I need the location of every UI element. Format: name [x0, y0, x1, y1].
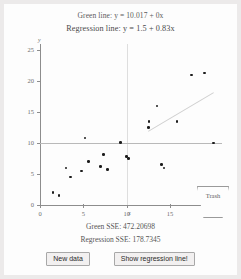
data-point[interactable]: [102, 153, 105, 156]
y-axis-label: y: [38, 37, 41, 43]
regression-line-equation: Regression line: y = 1.5 + 0.83x: [4, 24, 237, 33]
y-tick-label: 25: [18, 46, 34, 53]
x-tick-label: 15: [162, 210, 178, 217]
green-line-equation: Green line: y = 10.017 + 0x: [4, 11, 237, 20]
y-tick-mark: [37, 81, 41, 82]
button-bar: New data Show regression line!: [4, 252, 237, 266]
data-point[interactable]: [203, 72, 206, 75]
data-point[interactable]: [163, 167, 166, 170]
data-point[interactable]: [148, 120, 151, 123]
trash-label: Trash: [197, 192, 229, 199]
x-tick-mark: [83, 204, 84, 208]
data-point[interactable]: [99, 165, 102, 168]
data-point[interactable]: [160, 163, 163, 166]
data-point[interactable]: [69, 176, 72, 179]
plot-canvas[interactable]: y x 051015202505101520: [14, 38, 226, 218]
trash-bin[interactable]: Trash: [197, 186, 229, 218]
trash-can-icon: [197, 186, 229, 218]
y-tick-label: 20: [18, 77, 34, 84]
data-point[interactable]: [212, 142, 215, 145]
scatter-plot[interactable]: y x 051015202505101520: [14, 38, 226, 218]
data-point[interactable]: [190, 74, 193, 77]
regression-line[interactable]: [148, 93, 214, 132]
x-tick-label: 5: [75, 210, 91, 217]
data-point[interactable]: [52, 191, 55, 194]
y-tick-mark: [37, 50, 41, 51]
new-data-button[interactable]: New data: [46, 252, 90, 266]
data-point[interactable]: [147, 126, 150, 129]
vertical-gridline: [127, 44, 128, 205]
y-tick-mark: [37, 174, 41, 175]
x-tick-mark: [40, 204, 41, 208]
applet-panel: Green line: y = 10.017 + 0x Regression l…: [4, 4, 237, 275]
data-point[interactable]: [84, 137, 87, 140]
show-regression-line-button[interactable]: Show regression line!: [114, 252, 195, 266]
x-tick-label: 0: [32, 210, 48, 217]
data-point[interactable]: [156, 105, 159, 108]
data-point[interactable]: [80, 170, 83, 173]
x-axis: [40, 205, 222, 206]
y-tick-label: 15: [18, 108, 34, 115]
green-reference-line[interactable]: [40, 143, 222, 144]
data-point[interactable]: [58, 194, 61, 197]
data-point[interactable]: [87, 160, 90, 163]
x-tick-label: 10: [119, 210, 135, 217]
data-point[interactable]: [65, 167, 68, 170]
y-tick-label: 10: [18, 139, 34, 146]
y-axis: [40, 44, 41, 206]
y-tick-mark: [37, 112, 41, 113]
y-tick-label: 5: [18, 170, 34, 177]
data-point[interactable]: [127, 157, 130, 160]
data-point[interactable]: [119, 141, 122, 144]
y-tick-label: 0: [18, 201, 34, 208]
x-tick-mark: [170, 204, 171, 208]
data-point[interactable]: [106, 168, 109, 171]
regression-sse-readout: Regression SSE: 178.7345: [4, 235, 237, 244]
data-point[interactable]: [176, 120, 179, 123]
green-sse-readout: Green SSE: 472.20698: [4, 222, 237, 231]
